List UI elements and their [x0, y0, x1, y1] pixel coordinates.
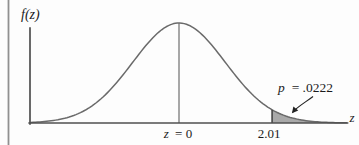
- p-annotation-value: = .0222: [292, 80, 333, 95]
- tick-label-critical: 2.01: [258, 126, 281, 141]
- tick-label-zero: z = 0: [163, 126, 192, 141]
- y-axis-label: f(z): [21, 7, 40, 23]
- p-annotation-variable: p: [277, 80, 285, 95]
- annotation-arrow-icon: [293, 97, 314, 113]
- normal-curve-figure: f(z) z z = 0 2.01 p = .0222: [0, 0, 359, 145]
- density-curve: [31, 23, 347, 123]
- p-value-annotation: p = .0222: [277, 80, 333, 95]
- tick-zero-value: = 0: [175, 126, 192, 141]
- x-axis-label: z: [349, 110, 355, 125]
- tick-zero-variable: z: [163, 126, 169, 141]
- figure-canvas: f(z) z z = 0 2.01 p = .0222: [0, 0, 359, 145]
